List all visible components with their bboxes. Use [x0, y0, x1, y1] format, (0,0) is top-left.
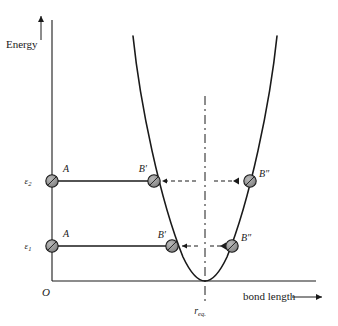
marker-Bdoubleprime-level-2 [244, 175, 256, 187]
level-1-arrowhead-outer [220, 243, 226, 250]
potential-energy-diagram: ε2 A B′ B″ [0, 0, 338, 326]
x-axis-label: bond length [243, 290, 296, 302]
origin-label: O [42, 286, 50, 298]
marker-Bprime-level-2 [148, 175, 160, 187]
y-axis-label: Energy [6, 38, 38, 50]
level-2-label-A: A [62, 163, 70, 174]
energy-level-2-group: ε2 A B′ B″ [25, 163, 271, 187]
marker-A-level-1 [46, 240, 58, 252]
level-2-energy-label: ε2 [25, 176, 33, 187]
marker-Bdoubleprime-level-1 [226, 240, 238, 252]
level-1-energy-label: ε1 [25, 241, 32, 252]
marker-Bprime-level-1 [166, 240, 178, 252]
diagram-canvas: ε2 A B′ B″ [0, 0, 338, 326]
level-2-label-Bprime: B′ [139, 163, 148, 174]
level-1-label-A: A [62, 228, 70, 239]
energy-level-1-group: ε1 A B′ B″ [25, 228, 253, 252]
level-2-arrowhead-outer [233, 178, 239, 185]
level-1-label-Bprime: B′ [158, 229, 167, 240]
level-2-label-Bdoubleprime: B″ [259, 168, 270, 179]
marker-A-level-2 [46, 175, 58, 187]
equilibrium-label: req. [194, 305, 206, 317]
level-1-label-Bdoubleprime: B″ [241, 232, 252, 243]
